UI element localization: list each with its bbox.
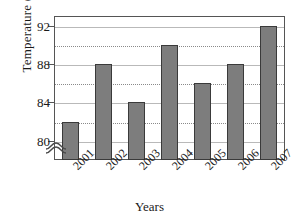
bar xyxy=(260,26,277,160)
y-tick-label: 88 xyxy=(37,58,50,71)
bar xyxy=(227,64,244,160)
bar xyxy=(128,102,145,160)
y-tick-label: 92 xyxy=(37,19,50,32)
bar-chart: Temperature (in F°) Years 80848892200120… xyxy=(0,0,299,222)
y-axis-title-text: Temperature (in F xyxy=(19,0,34,73)
bar xyxy=(194,83,211,160)
y-tick-label: 80 xyxy=(37,134,50,147)
bars-group xyxy=(54,16,285,160)
bar xyxy=(161,45,178,160)
y-tick-label: 84 xyxy=(37,96,50,109)
y-axis-title: Temperature (in F°) xyxy=(19,0,35,95)
x-axis-title: Years xyxy=(0,199,299,215)
bar xyxy=(95,64,112,160)
